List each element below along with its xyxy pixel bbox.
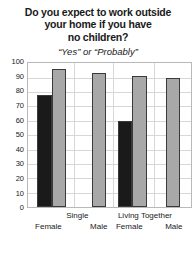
bar-living-together-male-gray	[166, 78, 181, 208]
x-group-label-living-together: Living Together	[118, 211, 172, 220]
y-axis-tick-0: 0	[20, 204, 24, 212]
y-axis-tick-70: 70	[16, 102, 24, 110]
bar-single-female-black	[37, 95, 52, 207]
y-axis-tick-labels: 0102030405060708090100	[2, 62, 26, 208]
y-axis-tick-30: 30	[16, 161, 24, 169]
y-axis-tick-100: 100	[11, 58, 24, 66]
x-category-label-1-male: Male	[90, 222, 107, 231]
chart-subtitle: “Yes” or “Probably”	[6, 45, 190, 58]
page-title-line-1: Do you expect to work outside	[6, 6, 190, 18]
bar-series-container	[28, 63, 191, 207]
y-axis-tick-20: 20	[16, 175, 24, 183]
y-axis-tick-80: 80	[16, 88, 24, 96]
bar-single-female-gray	[52, 69, 67, 207]
y-axis-tick-60: 60	[16, 117, 24, 125]
bar-chart: 0102030405060708090100	[2, 62, 192, 208]
page-title-line-3: no children?	[6, 31, 190, 43]
y-axis-tick-40: 40	[16, 146, 24, 154]
y-axis-tick-50: 50	[16, 131, 24, 139]
x-group-label-single: Single	[66, 211, 88, 220]
bar-living-together-female-black	[118, 121, 133, 207]
x-category-label-2-female: Female	[116, 222, 143, 231]
bar-living-together-female-gray	[132, 76, 147, 207]
x-category-label-3-male: Male	[165, 222, 182, 231]
chart-title-block: Do you expect to work outside your home …	[0, 0, 196, 58]
page-title-line-2: your home if you have	[6, 18, 190, 30]
x-category-label-0-female: Female	[35, 222, 62, 231]
y-axis-tick-90: 90	[16, 73, 24, 81]
chart-page: Do you expect to work outside your home …	[0, 0, 196, 269]
x-axis-labels: SingleLiving TogetherFemaleMaleFemaleMal…	[27, 211, 192, 241]
bar-single-male-gray	[92, 73, 107, 207]
plot-area	[27, 62, 192, 208]
y-axis-tick-10: 10	[16, 190, 24, 198]
